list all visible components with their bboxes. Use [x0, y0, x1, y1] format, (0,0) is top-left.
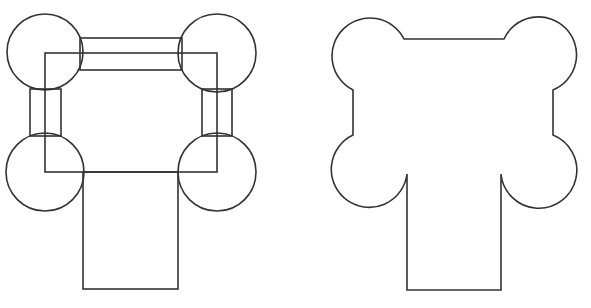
merged-outline	[331, 17, 577, 290]
right-figure	[331, 17, 577, 290]
diagram-canvas	[0, 0, 591, 308]
stem-rect	[83, 172, 178, 289]
center-frame-rect	[45, 53, 217, 172]
left-figure	[6, 14, 256, 289]
top-connector-rect	[80, 38, 182, 70]
